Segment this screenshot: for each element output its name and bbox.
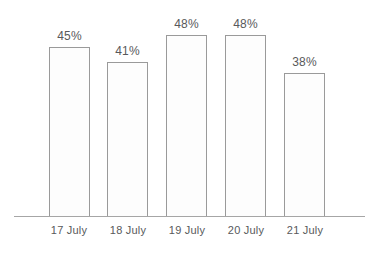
- bar-chart: 45% 41% 48% 48% 38% 17 July 18 July 19 J…: [0, 0, 373, 258]
- bar-group: 38%: [284, 73, 325, 217]
- bar[interactable]: [225, 35, 266, 217]
- x-axis-labels: 17 July 18 July 19 July 20 July 21 July: [0, 224, 373, 244]
- bar-group: 48%: [225, 35, 266, 217]
- bar[interactable]: [49, 47, 90, 217]
- bar-group: 45%: [49, 47, 90, 217]
- bar-group: 48%: [166, 35, 207, 217]
- x-axis-tick-label: 19 July: [169, 224, 205, 236]
- bar-value-label: 48%: [174, 17, 199, 31]
- bar[interactable]: [107, 62, 148, 217]
- bar-value-label: 45%: [57, 29, 82, 43]
- plot-area: 45% 41% 48% 48% 38%: [0, 0, 373, 217]
- bar-value-label: 41%: [115, 44, 140, 58]
- bar[interactable]: [284, 73, 325, 217]
- x-axis-line: [14, 216, 365, 217]
- x-axis-tick-label: 18 July: [110, 224, 146, 236]
- x-axis-tick-label: 21 July: [287, 224, 323, 236]
- bar-value-label: 48%: [233, 17, 258, 31]
- x-axis-tick-label: 20 July: [228, 224, 264, 236]
- bar-group: 41%: [107, 62, 148, 217]
- bar[interactable]: [166, 35, 207, 217]
- bar-value-label: 38%: [292, 55, 317, 69]
- x-axis-tick-label: 17 July: [51, 224, 87, 236]
